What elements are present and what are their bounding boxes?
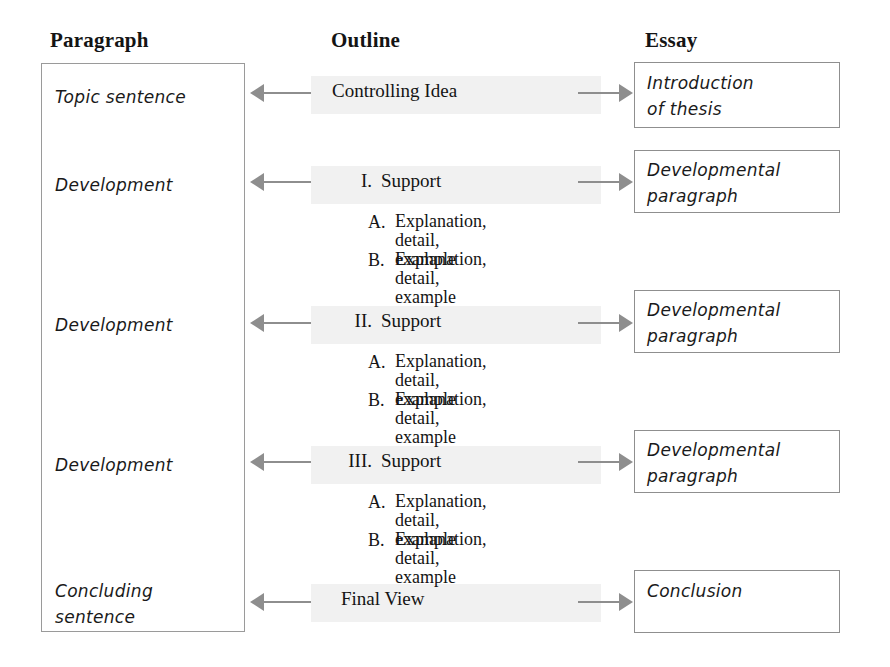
essay-label-developmental-3: Developmental paragraph: [647, 437, 780, 489]
essay-label-developmental-1: Developmental paragraph: [647, 157, 780, 209]
essay-label-introduction: Introduction of thesis: [647, 70, 754, 122]
outline-sub-text-b: Explanation, detail, example: [395, 530, 486, 587]
paragraph-item-concluding-sentence: Concluding sentence: [55, 578, 153, 630]
essay-label-developmental-2: Developmental paragraph: [647, 297, 780, 349]
paragraph-item-development-2: Development: [55, 312, 173, 338]
column-header-outline: Outline: [331, 28, 400, 53]
outline-sub-letter-b: B.: [368, 250, 394, 271]
outline-sub-letter-a: A.: [368, 492, 394, 513]
outline-sub-text-b: Explanation, detail, example: [395, 390, 486, 447]
paragraph-item-development-1: Development: [55, 172, 173, 198]
outline-row-controlling-idea: Controlling Idea: [332, 80, 457, 102]
outline-row-support-3: Support: [381, 450, 441, 472]
outline-sub-letter-b: B.: [368, 390, 394, 411]
paragraph-item-topic-sentence: Topic sentence: [55, 84, 186, 110]
outline-sub-letter-a: A.: [368, 352, 394, 373]
outline-row-support-2: Support: [381, 310, 441, 332]
outline-sub-text-b: Explanation, detail, example: [395, 250, 486, 307]
outline-sub-letter-b: B.: [368, 530, 394, 551]
outline-sub-letter-a: A.: [368, 212, 394, 233]
outline-row-support-1: Support: [381, 170, 441, 192]
paragraph-column-box: [41, 63, 245, 632]
outline-numeral-3: III.: [338, 450, 372, 472]
outline-numeral-1: I.: [338, 170, 372, 192]
essay-outline-diagram: Paragraph Outline Essay Topic sentence D…: [0, 0, 890, 667]
column-header-paragraph: Paragraph: [50, 28, 149, 53]
outline-row-final-view: Final View: [341, 588, 424, 610]
paragraph-item-development-3: Development: [55, 452, 173, 478]
essay-label-conclusion: Conclusion: [647, 578, 743, 604]
column-header-essay: Essay: [645, 28, 697, 53]
outline-numeral-2: II.: [338, 310, 372, 332]
